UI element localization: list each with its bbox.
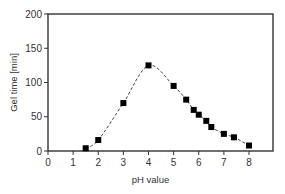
y-axis-title: Gel time [min] <box>8 53 19 112</box>
data-point-marker <box>183 97 189 103</box>
plot-border <box>48 14 273 151</box>
plot-frame <box>48 14 273 151</box>
x-tick-label: 2 <box>95 157 101 168</box>
data-point-marker <box>196 112 202 118</box>
data-point-marker <box>208 124 214 130</box>
data-point-marker <box>246 143 252 149</box>
x-tick-label: 5 <box>171 157 177 168</box>
data-point-marker <box>83 145 89 151</box>
data-point-marker <box>231 134 237 140</box>
x-tick-label: 6 <box>196 157 202 168</box>
y-tick-label: 50 <box>31 111 43 122</box>
x-axis: 012345678 <box>45 151 252 168</box>
y-tick-label: 200 <box>25 9 42 20</box>
x-tick-label: 8 <box>246 157 252 168</box>
data-point-marker <box>120 100 126 106</box>
x-tick-label: 0 <box>45 157 51 168</box>
x-tick-label: 3 <box>121 157 127 168</box>
data-point-marker <box>146 62 152 68</box>
gel-time-chart: 050100150200 012345678 pH value Gel time… <box>0 0 285 194</box>
x-tick-label: 1 <box>70 157 76 168</box>
data-point-marker <box>95 137 101 143</box>
data-point-marker <box>171 83 177 89</box>
x-tick-label: 7 <box>221 157 227 168</box>
y-tick-label: 0 <box>36 146 42 157</box>
y-tick-label: 150 <box>25 43 42 54</box>
data-point-marker <box>221 131 227 137</box>
y-axis: 050100150200 <box>25 9 48 157</box>
x-tick-label: 4 <box>146 157 152 168</box>
data-point-marker <box>203 118 209 124</box>
x-axis-title: pH value <box>132 174 170 185</box>
data-points <box>83 62 252 151</box>
y-tick-label: 100 <box>25 77 42 88</box>
